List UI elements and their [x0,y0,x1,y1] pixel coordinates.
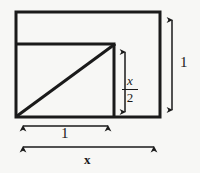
geometry-figure: 1 1 x x 2 [0,0,200,173]
fraction-denominator: 2 [122,91,138,105]
figure-canvas [0,0,200,173]
fraction-numerator: x [122,74,138,88]
diagonal-line [17,44,115,116]
segment-dimension-label: x 2 [122,74,138,104]
height-dimension-label: 1 [180,55,188,70]
outer-width-dimension-label: x [84,153,91,166]
inner-width-dimension-label: 1 [61,126,69,141]
